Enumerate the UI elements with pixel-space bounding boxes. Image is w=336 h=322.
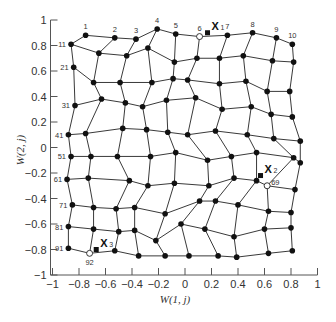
- edge: [117, 128, 122, 156]
- grid-node: [231, 234, 237, 240]
- x-tick-label: −0.6: [95, 278, 117, 290]
- edge: [219, 81, 246, 84]
- grid-node: [136, 253, 142, 259]
- edge: [68, 135, 71, 157]
- grid-node: [91, 205, 97, 211]
- grid-node: [178, 221, 184, 227]
- input-subscript: 2: [274, 167, 278, 174]
- x-tick-label: 0: [182, 278, 188, 290]
- node-label: 7: [225, 22, 229, 31]
- grid-node: [172, 59, 178, 65]
- grid-node: [113, 206, 119, 212]
- edge: [166, 79, 173, 101]
- input-subscript: 1: [221, 24, 225, 31]
- grid-node: [241, 53, 247, 59]
- edge: [268, 211, 291, 212]
- grid-node: [292, 187, 298, 193]
- edge: [117, 156, 129, 180]
- grid-node: [288, 225, 294, 231]
- edge: [168, 132, 176, 152]
- grid-node: [291, 155, 297, 161]
- node-label: 92: [85, 258, 93, 267]
- node-label: 61: [54, 175, 62, 184]
- y-tick-label: 0: [40, 142, 46, 154]
- grid-node: [193, 95, 199, 101]
- grid-node: [266, 251, 272, 257]
- edge: [86, 99, 102, 133]
- grid-node: [262, 226, 268, 232]
- grid-node: [194, 55, 200, 61]
- edge: [208, 156, 232, 160]
- edge: [243, 33, 252, 56]
- edge: [143, 82, 152, 106]
- grid-node: [219, 106, 225, 112]
- grid-node: [145, 183, 151, 189]
- edge: [291, 228, 292, 251]
- input-marker: [94, 247, 99, 252]
- edge: [215, 131, 247, 135]
- edge: [136, 29, 157, 39]
- y-tick-label: 0.8: [31, 40, 46, 52]
- edge: [265, 228, 292, 229]
- edge: [272, 38, 276, 61]
- grid-node: [234, 254, 240, 260]
- edge: [102, 99, 126, 103]
- grid-node: [235, 202, 241, 208]
- edge: [290, 91, 293, 117]
- edge: [135, 186, 148, 208]
- node-label: 51: [58, 152, 66, 161]
- grid-node: [291, 59, 297, 65]
- edge: [68, 227, 93, 230]
- grid-node: [243, 78, 249, 84]
- y-tick-label: −0.4: [25, 193, 47, 205]
- node-label: 10: [288, 31, 296, 40]
- edge: [90, 229, 94, 253]
- edge: [272, 61, 293, 62]
- grid-node: [72, 103, 78, 109]
- y-tick-label: −0.2: [25, 167, 47, 179]
- edge: [246, 81, 251, 107]
- node-label: 9: [274, 25, 278, 34]
- grid-node: [162, 253, 168, 259]
- edge: [274, 139, 294, 158]
- grid-node: [124, 53, 130, 59]
- edge: [99, 38, 115, 53]
- edge: [267, 61, 272, 92]
- winner-node: [87, 250, 93, 256]
- edge: [174, 34, 175, 62]
- edge: [94, 207, 117, 208]
- grid-node: [144, 127, 150, 133]
- grid-node: [96, 50, 102, 56]
- edge: [292, 117, 300, 141]
- node-label: 2: [113, 25, 117, 34]
- grid-node: [173, 150, 179, 156]
- y-tick-label: 0.2: [31, 116, 46, 128]
- edge: [243, 56, 272, 61]
- grid-node: [149, 80, 155, 86]
- edge: [148, 48, 152, 82]
- edge: [219, 35, 227, 58]
- grid-node: [148, 154, 154, 160]
- grid-node: [123, 100, 129, 106]
- input-marker: [258, 173, 263, 178]
- grid-node: [274, 35, 280, 41]
- edge: [156, 224, 181, 241]
- grid-node: [68, 154, 74, 160]
- edge: [151, 153, 176, 157]
- grid-node: [264, 89, 270, 95]
- grid-node: [88, 154, 94, 160]
- edge: [188, 98, 196, 135]
- edge: [174, 58, 197, 62]
- edge: [238, 181, 257, 205]
- grid-node: [140, 104, 146, 110]
- edge: [147, 130, 168, 133]
- edge: [143, 107, 147, 130]
- grid-node: [248, 104, 254, 110]
- node-label: 4: [155, 16, 159, 25]
- node-label: 31: [62, 101, 70, 110]
- y-tick-label: −0.6: [25, 218, 47, 230]
- edge: [295, 163, 300, 190]
- grid-node: [162, 211, 168, 217]
- grid-node: [268, 112, 274, 118]
- edge: [219, 84, 222, 110]
